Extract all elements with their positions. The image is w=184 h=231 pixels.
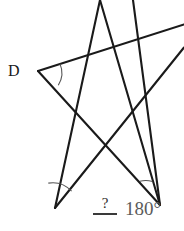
edge-top-right-to-bottom-left xyxy=(55,48,184,209)
angle-arc-vertex-d xyxy=(58,64,62,85)
angle-sum-label: 180° xyxy=(125,199,161,218)
star-angle-figure: D ? 180° xyxy=(0,0,184,231)
answer-annotation: ? 180° xyxy=(92,196,161,215)
edge-top-left-to-bottom-left xyxy=(55,0,100,208)
angle-arc-bottom-right xyxy=(140,181,153,182)
blank-underline-rule xyxy=(93,213,117,215)
edge-top-right-upper-stroke xyxy=(133,0,160,205)
edge-d-to-bottom-right xyxy=(38,71,160,205)
star-edges xyxy=(38,0,184,208)
question-mark-label: ? xyxy=(102,196,109,213)
vertex-label-d: D xyxy=(8,63,20,79)
edge-top-left-to-bottom-right xyxy=(100,0,160,205)
answer-blank[interactable]: ? xyxy=(92,196,118,215)
